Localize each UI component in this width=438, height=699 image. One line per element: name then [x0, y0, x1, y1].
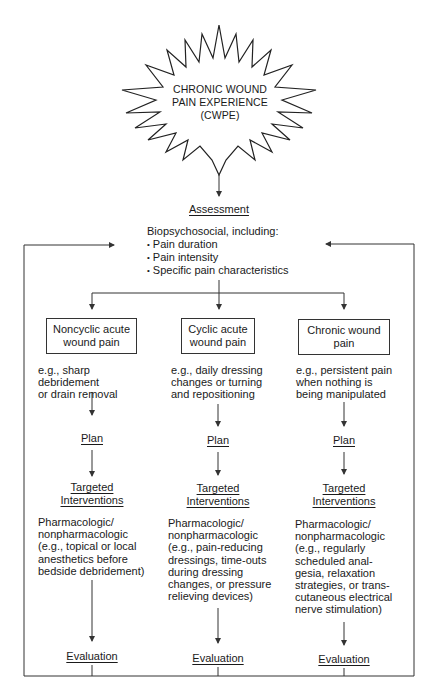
- noncyclic-acute-pain-box: Noncyclic acutewound pain: [46, 318, 137, 354]
- cyclic-plan: Plan: [188, 434, 248, 447]
- noncyclic-evaluation: Evaluation: [57, 650, 127, 663]
- assessment-bullets: Pain duration Pain intensity Specific pa…: [147, 238, 289, 277]
- assessment-intro: Biopsychosocial, including:: [147, 225, 289, 238]
- assessment-bullet: Pain intensity: [147, 251, 289, 264]
- cyclic-acute-pain-box: Cyclic acutewound pain: [181, 318, 255, 354]
- chronic-example: e.g., persistent pain when nothing is be…: [296, 364, 411, 401]
- start-node-label: CHRONIC WOUND PAIN EXPERIENCE (CWPE): [150, 83, 290, 122]
- cyclic-interventions-body: Pharmacologic/ nonpharmacologic (e.g., p…: [168, 517, 286, 602]
- start-line-1: CHRONIC WOUND: [150, 83, 290, 96]
- start-line-3: (CWPE): [150, 109, 290, 122]
- noncyclic-interventions-body: Pharmacologic/ nonpharmacologic (e.g., t…: [38, 516, 148, 577]
- chronic-interventions-body: Pharmacologic/ nonpharmacologic (e.g., r…: [295, 518, 413, 616]
- figure-caption-clipped: [70, 692, 390, 699]
- chronic-plan: Plan: [314, 434, 374, 447]
- assessment-bullet: Specific pain characteristics: [147, 264, 289, 277]
- cyclic-targeted-interventions: Targeted Interventions: [178, 482, 258, 508]
- chronic-evaluation: Evaluation: [309, 653, 379, 666]
- assessment-details: Biopsychosocial, including: Pain duratio…: [147, 225, 289, 277]
- cyclic-evaluation: Evaluation: [183, 652, 253, 665]
- assessment-bullet: Pain duration: [147, 238, 289, 251]
- start-line-2: PAIN EXPERIENCE: [150, 96, 290, 109]
- cyclic-example: e.g., daily dressing changes or turning …: [171, 364, 281, 401]
- noncyclic-targeted-interventions: Targeted Interventions: [52, 481, 132, 507]
- noncyclic-plan: Plan: [62, 432, 122, 445]
- assessment-heading: Assessment: [169, 203, 269, 216]
- chronic-targeted-interventions: Targeted Interventions: [304, 482, 384, 508]
- noncyclic-example: e.g., sharp debridement or drain removal: [38, 364, 148, 401]
- chronic-wound-pain-box: Chronic woundpain: [298, 319, 390, 355]
